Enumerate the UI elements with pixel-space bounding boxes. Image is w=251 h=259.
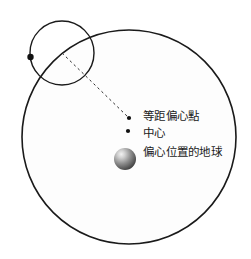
- earth-sphere: [114, 148, 136, 170]
- center-point-dot: [126, 129, 130, 133]
- deferent-circle: [22, 30, 236, 244]
- equant-point-dot: [127, 116, 131, 120]
- ptolemaic-model-diagram: 等距偏心點 中心 偏心位置的地球: [0, 0, 251, 259]
- diagram-canvas: [0, 0, 251, 259]
- planet-dot: [27, 54, 33, 60]
